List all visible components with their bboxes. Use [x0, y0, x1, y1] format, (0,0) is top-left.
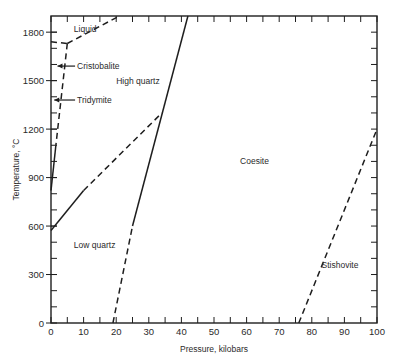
phase-boundary-line — [133, 16, 188, 226]
phase-diagram: 0102030405060708090100030060090012001500… — [0, 0, 394, 361]
x-tick-label: 20 — [111, 326, 122, 337]
region-label: Coesite — [240, 156, 269, 166]
phase-boundary-line — [51, 191, 84, 231]
x-tick-label: 90 — [339, 326, 350, 337]
x-tick-label: 80 — [307, 326, 318, 337]
x-tick-label: 0 — [48, 326, 53, 337]
y-tick-label: 1500 — [23, 75, 44, 86]
y-tick-label: 300 — [28, 269, 44, 280]
phase-boundary-line — [51, 145, 56, 190]
y-axis-title: Temperature, °C — [11, 139, 21, 201]
x-tick-label: 40 — [176, 326, 187, 337]
x-tick-label: 100 — [369, 326, 385, 337]
region-label: Liquid — [74, 24, 97, 34]
region-label: High quartz — [116, 76, 159, 86]
y-tick-label: 0 — [39, 318, 44, 329]
x-axis-title: Pressure, kilobars — [180, 344, 248, 354]
arrowhead-icon — [58, 64, 63, 69]
phase-boundary-line — [51, 42, 67, 44]
region-label: Tridymite — [77, 95, 112, 105]
x-tick-label: 30 — [144, 326, 155, 337]
x-tick-label: 60 — [241, 326, 252, 337]
x-tick-label: 50 — [209, 326, 220, 337]
phase-boundary-line — [84, 113, 162, 191]
x-tick-label: 70 — [274, 326, 285, 337]
y-tick-label: 900 — [28, 172, 44, 183]
y-tick-label: 1800 — [23, 27, 44, 38]
y-tick-label: 600 — [28, 221, 44, 232]
arrowhead-icon — [54, 98, 59, 103]
x-tick-label: 10 — [78, 326, 89, 337]
y-tick-label: 1200 — [23, 124, 44, 135]
region-label: Cristobalite — [77, 61, 120, 71]
phase-boundary-line — [56, 43, 67, 145]
phase-boundary-line — [113, 226, 133, 323]
region-label: Low quartz — [74, 240, 116, 250]
phase-boundary-line — [299, 129, 377, 323]
region-label: Stishovite — [322, 260, 359, 270]
